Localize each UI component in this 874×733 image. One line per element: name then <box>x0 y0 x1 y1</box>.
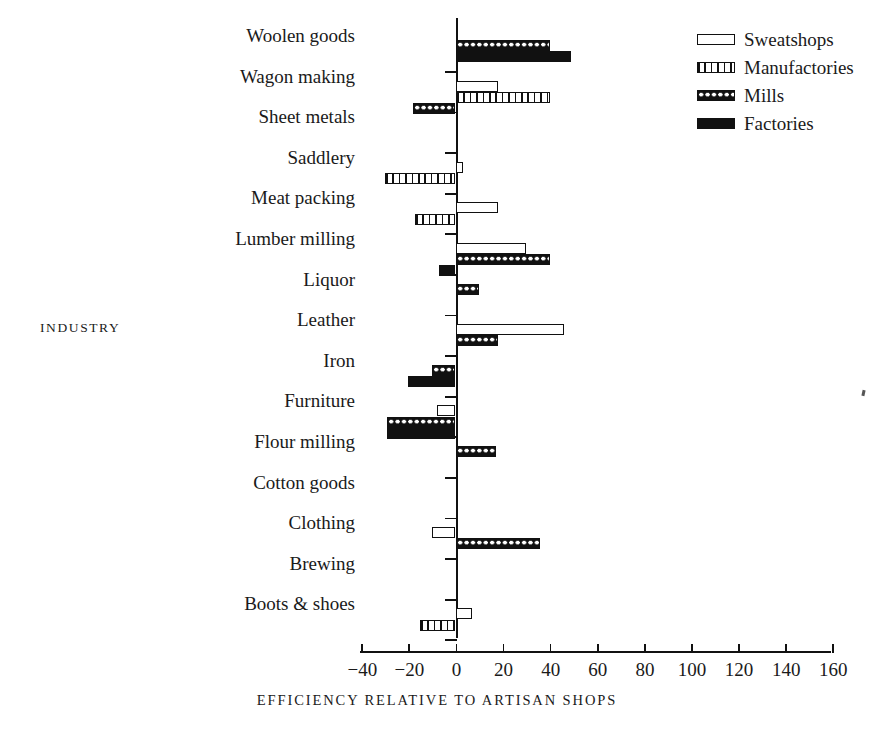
x-axis-tick <box>503 644 505 653</box>
x-axis-tick <box>785 644 787 653</box>
category-label: Furniture <box>284 391 355 410</box>
x-axis-tick <box>408 644 410 653</box>
legend-swatch-mills <box>697 90 735 101</box>
y-axis-tick <box>445 599 457 601</box>
bar-sweatshops <box>456 162 463 173</box>
bar-mills <box>456 335 498 346</box>
legend-label: Mills <box>744 86 784 105</box>
x-axis-line <box>360 651 831 653</box>
bar-factories <box>408 376 455 387</box>
y-axis-tick <box>445 233 457 235</box>
bar-sweatshops <box>456 608 472 619</box>
y-axis-tick <box>445 436 457 438</box>
category-label: Leather <box>297 310 355 329</box>
legend-item: Sweatshops <box>697 25 872 53</box>
y-axis-tick <box>445 112 457 114</box>
bar-mills <box>432 365 456 376</box>
bar-mills <box>456 40 550 51</box>
y-axis-tick <box>445 152 457 154</box>
x-axis-tick <box>832 644 834 653</box>
legend-item: Mills <box>697 81 872 109</box>
bar-manufactories <box>420 620 455 631</box>
x-axis-tick <box>691 644 693 653</box>
y-axis-tick <box>445 193 457 195</box>
x-axis-title: EFFICIENCY RELATIVE TO ARTISAN SHOPS <box>0 692 874 709</box>
category-label: Cotton goods <box>253 473 355 492</box>
x-axis-tick-label: 160 <box>803 660 863 680</box>
bar-mills <box>456 446 496 457</box>
category-label: Meat packing <box>251 188 355 207</box>
category-label: Boots & shoes <box>244 594 355 613</box>
y-axis-tick <box>445 477 457 479</box>
bar-sweatshops <box>456 324 564 335</box>
bar-sweatshops <box>456 243 527 254</box>
bar-manufactories <box>415 214 455 225</box>
x-axis-tick <box>456 644 458 653</box>
x-axis-tick <box>550 644 552 653</box>
category-label: Flour milling <box>254 432 355 451</box>
y-axis-tick <box>445 355 457 357</box>
legend-label: Sweatshops <box>744 30 834 49</box>
category-label: Wagon making <box>240 67 355 86</box>
category-label: Liquor <box>303 270 355 289</box>
category-label: Brewing <box>290 554 355 573</box>
bar-factories <box>456 51 571 62</box>
bar-mills <box>387 417 455 428</box>
category-label: Clothing <box>288 513 355 532</box>
bar-manufactories <box>385 173 456 184</box>
y-axis-tick <box>445 639 457 641</box>
bar-manufactories <box>456 92 550 103</box>
bar-mills <box>456 254 550 265</box>
legend-item: Factories <box>697 109 872 137</box>
x-axis-tick <box>644 644 646 653</box>
category-label: Woolen goods <box>246 26 355 45</box>
legend-label: Manufactories <box>744 58 854 77</box>
legend-label: Factories <box>744 114 814 133</box>
y-axis-tick <box>445 396 457 398</box>
y-axis-tick <box>445 518 457 520</box>
category-label: Saddlery <box>287 148 355 167</box>
y-axis-tick <box>445 71 457 73</box>
x-axis-tick <box>738 644 740 653</box>
y-axis-tick <box>445 274 457 276</box>
page-speck <box>861 390 865 396</box>
category-label: Iron <box>323 351 355 370</box>
y-axis-tick <box>445 558 457 560</box>
y-axis-tick <box>445 315 457 317</box>
category-label-column: Woolen goodsWagon makingSheet metalsSadd… <box>60 0 355 640</box>
x-axis-tick <box>361 644 363 653</box>
x-axis-tick <box>597 644 599 653</box>
legend-swatch-manufactories <box>697 62 735 73</box>
legend-swatch-factories <box>697 118 735 129</box>
bar-sweatshops <box>432 527 456 538</box>
chart-legend: SweatshopsManufactoriesMillsFactories <box>697 25 872 137</box>
bar-chart: INDUSTRY Woolen goodsWagon makingSheet m… <box>0 0 874 733</box>
bar-sweatshops <box>456 202 498 213</box>
bar-mills <box>456 538 541 549</box>
bar-sweatshops <box>456 81 498 92</box>
category-label: Sheet metals <box>258 107 355 126</box>
bar-mills <box>456 284 480 295</box>
legend-item: Manufactories <box>697 53 872 81</box>
category-label: Lumber milling <box>235 229 355 248</box>
legend-swatch-sweatshops <box>697 34 735 45</box>
bar-sweatshops <box>437 405 456 416</box>
